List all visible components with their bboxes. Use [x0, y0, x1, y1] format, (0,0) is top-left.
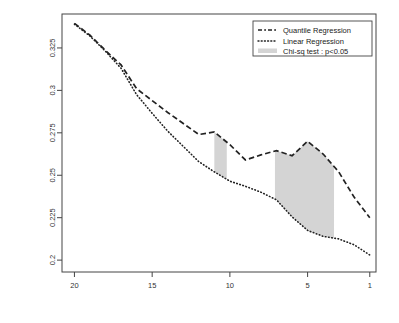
y-tick-label: 0.3	[48, 85, 57, 95]
legend-label-quantile: Quantile Regression	[283, 26, 351, 35]
filled-band-icon	[258, 49, 277, 54]
x-tick-label: 15	[148, 281, 156, 290]
y-tick-label: 0.325	[48, 39, 57, 58]
y-tick-label: 0.275	[48, 123, 57, 142]
chart-figure: ordered hit-rate top percentage consider…	[0, 0, 399, 323]
legend-label-chisq: Chi-sq test : p<0.05	[283, 47, 348, 56]
x-tick-label: 5	[306, 281, 310, 290]
chart-legend: Quantile Regression Linear Regression Ch…	[253, 21, 372, 56]
y-tick-label: 0.25	[48, 168, 57, 183]
y-tick-label: 0.225	[48, 208, 57, 227]
plot-canvas: 20151051 0.20.2250.250.2750.30.325 Quant…	[0, 0, 399, 323]
x-tick-label: 10	[226, 281, 234, 290]
y-tick-label: 0.2	[48, 255, 57, 265]
x-tick-label: 1	[368, 281, 372, 290]
legend-label-linear: Linear Regression	[283, 37, 344, 46]
x-tick-label: 20	[70, 281, 78, 290]
